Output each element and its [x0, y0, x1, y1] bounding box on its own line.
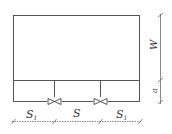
label-s-middle: S [73, 107, 81, 120]
label-a: a [150, 88, 159, 93]
label-s1-left: S1 [26, 108, 37, 121]
label-s1-right: S1 [116, 108, 127, 121]
valve-left-icon [47, 98, 62, 105]
valve-right-icon [93, 98, 108, 105]
diagram-canvas: S1 S S1 W a [0, 0, 172, 134]
basin-outline [14, 16, 140, 102]
label-w: W [148, 39, 159, 50]
